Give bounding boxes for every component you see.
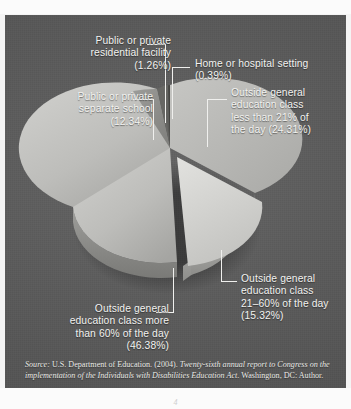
label-outside-more-than-60: Outside general education class more tha… [19,303,169,353]
figure-panel: Public or private residential facility (… [5,15,346,388]
source-tail: . Washington, DC: Author. [237,371,323,380]
label-outside-21-60: Outside general education class 21–60% o… [241,273,346,323]
page-top-margin [0,0,351,14]
source-citation: Source: U.S. Department of Education. (2… [25,360,333,381]
source-agency: U.S. Department of Education. (2004). [50,360,180,369]
figure-page: Public or private residential facility (… [0,0,351,409]
pie-chart: Public or private residential facility (… [5,15,346,388]
label-residential-facility: Public or private residential facility (… [23,35,171,72]
source-lead: Source: [25,360,50,369]
label-home-hospital: Home or hospital setting (0.39%) [195,58,346,83]
label-separate-school: Public or private separate school (12.34… [13,91,153,128]
label-outside-less-than-21: Outside general education class less tha… [231,87,346,137]
page-number: 4 [0,398,351,407]
